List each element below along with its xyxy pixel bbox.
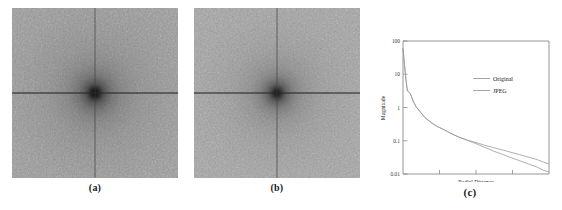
- legend-label-jpeg: JPEG: [493, 88, 507, 94]
- panel-label-b: (b): [194, 182, 360, 193]
- panel-a-spectrum-image: [12, 8, 178, 178]
- y-axis-tick-labels: 100 10 1 0.1 0.01: [391, 38, 401, 177]
- ytick-label-0.01: 0.01: [391, 171, 401, 177]
- x-axis-ticks: [440, 170, 513, 174]
- x-axis-title: Radial Distance: [458, 179, 494, 182]
- ytick-label-0.1: 0.1: [393, 138, 400, 144]
- radial-magnitude-plot: 100 10 1 0.1 0.01 Magnitude Radial Dista…: [374, 24, 556, 182]
- y-axis-title: Magnitude: [380, 95, 386, 120]
- figure-container: (a): [0, 0, 562, 210]
- legend-label-original: Original: [493, 76, 513, 82]
- ytick-label-100: 100: [392, 38, 400, 44]
- panel-label-c: (c): [450, 186, 490, 198]
- fft-spectrum-a: [12, 8, 178, 178]
- spectrum-vertical-artifact-a: [94, 8, 96, 178]
- series-line-jpeg: [403, 48, 549, 172]
- panel-c-line-chart: 100 10 1 0.1 0.01 Magnitude Radial Dista…: [374, 24, 556, 182]
- fft-spectrum-b: [194, 8, 360, 178]
- panel-label-a: (a): [12, 182, 178, 193]
- y-axis-ticks: [403, 41, 408, 174]
- spectrum-vertical-artifact-b: [276, 8, 278, 178]
- series-line-original: [403, 48, 549, 164]
- chart-legend: Original JPEG: [473, 76, 513, 94]
- plot-axes: [403, 41, 549, 174]
- panel-b-spectrum-image: [194, 8, 360, 178]
- ytick-label-1: 1: [397, 105, 400, 111]
- ytick-label-10: 10: [395, 71, 401, 77]
